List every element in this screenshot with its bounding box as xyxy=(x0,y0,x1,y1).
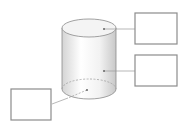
leader-dot-side xyxy=(103,70,105,72)
leader-line-base xyxy=(52,98,68,104)
label-box-top-face[interactable] xyxy=(135,13,177,44)
cylinder-top-face xyxy=(62,19,116,37)
label-box-lateral-surface[interactable] xyxy=(135,55,177,86)
leader-dot-top xyxy=(103,28,105,30)
label-box-base[interactable] xyxy=(11,89,51,120)
cylinder-diagram xyxy=(0,0,186,130)
leader-dot-base xyxy=(86,89,88,91)
cylinder-lateral-surface xyxy=(62,28,116,99)
